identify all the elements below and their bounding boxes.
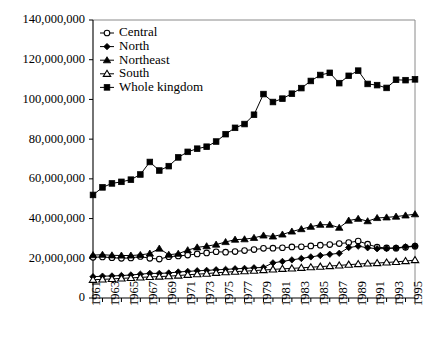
x-tick-label: 1973 (203, 281, 217, 306)
data-point (270, 99, 276, 105)
x-tick-label: 1965 (127, 281, 141, 306)
data-point (185, 252, 191, 258)
data-point (156, 256, 162, 262)
x-tick-label: 1993 (392, 281, 406, 306)
data-point (194, 146, 200, 152)
data-point (317, 72, 323, 78)
data-point (308, 78, 314, 84)
x-tick-label: 1979 (260, 281, 274, 306)
data-point (194, 251, 200, 257)
data-point (213, 139, 219, 145)
data-point (204, 250, 210, 256)
data-point (185, 149, 191, 155)
data-point (232, 125, 238, 131)
x-tick-label: 1989 (355, 281, 369, 306)
data-point (374, 82, 380, 88)
x-tick-label: 1971 (184, 281, 198, 306)
data-point (346, 73, 352, 79)
data-point (90, 192, 96, 198)
data-point (119, 179, 125, 185)
data-point (270, 245, 276, 251)
data-point (327, 242, 333, 248)
chart-container: 020,000,00040,000,00060,000,00080,000,00… (0, 0, 435, 350)
data-point (384, 85, 390, 91)
data-point (156, 168, 162, 174)
data-point (365, 81, 371, 87)
data-point (317, 242, 323, 248)
x-tick-label: 1987 (336, 281, 350, 306)
x-tick-label: 1981 (279, 281, 293, 306)
data-point (109, 181, 115, 187)
x-tick-label: 1967 (146, 281, 160, 306)
y-axis-ticks: 020,000,00040,000,00060,000,00080,000,00… (23, 12, 94, 304)
legend-label: Whole kingdom (119, 79, 203, 94)
data-point (280, 96, 286, 102)
data-point (280, 245, 286, 251)
data-point (232, 249, 238, 255)
data-point (299, 85, 305, 91)
data-point (213, 249, 219, 255)
data-point (242, 248, 248, 254)
y-tick-label: 0 (79, 290, 85, 304)
x-tick-label: 1961 (89, 281, 103, 306)
data-point (289, 91, 295, 97)
y-tick-label: 120,000,000 (23, 52, 86, 66)
data-point (251, 112, 257, 118)
data-point (336, 80, 342, 86)
y-tick-label: 60,000,000 (29, 171, 85, 185)
data-point (251, 247, 257, 253)
x-tick-label: 1977 (241, 281, 255, 306)
y-tick-label: 100,000,000 (23, 92, 86, 106)
data-point (393, 77, 399, 83)
x-tick-label: 1991 (373, 281, 387, 306)
data-point (138, 172, 144, 178)
data-point (100, 185, 106, 191)
y-tick-label: 40,000,000 (29, 211, 85, 225)
x-tick-label: 1985 (317, 281, 331, 306)
data-point (327, 70, 333, 76)
data-point (242, 121, 248, 127)
y-tick-label: 140,000,000 (23, 12, 86, 26)
x-tick-label: 1995 (411, 281, 425, 306)
data-point (223, 131, 229, 137)
data-point (223, 249, 229, 255)
x-tick-label: 1969 (165, 281, 179, 306)
y-tick-label: 80,000,000 (29, 132, 85, 146)
data-point (355, 68, 361, 74)
data-point (204, 144, 210, 150)
data-point (261, 246, 267, 252)
data-point (403, 77, 409, 83)
data-point (128, 177, 134, 183)
x-tick-label: 1963 (108, 281, 122, 306)
y-tick-label: 20,000,000 (29, 251, 85, 265)
data-point (175, 155, 181, 161)
data-point (166, 163, 172, 169)
x-tick-label: 1975 (222, 281, 236, 306)
data-point (336, 241, 342, 247)
data-point (412, 77, 418, 83)
legend-marker-open-circle-icon (104, 30, 110, 36)
data-point (299, 244, 305, 250)
data-point (289, 244, 295, 250)
legend-marker-filled-square-icon (104, 85, 110, 91)
data-point (308, 243, 314, 249)
x-tick-label: 1983 (298, 281, 312, 306)
data-point (261, 91, 267, 97)
data-point (147, 159, 153, 165)
line-chart: 020,000,00040,000,00060,000,00080,000,00… (0, 0, 435, 350)
